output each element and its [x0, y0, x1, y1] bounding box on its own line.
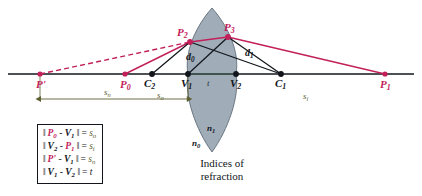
label-P2: P2 — [177, 27, 188, 40]
legend-row-si: ‖ V2 - P1 ‖ = si — [43, 141, 96, 154]
norm-close-bar: ‖ — [77, 128, 79, 138]
legend-term-P-prime: P' — [48, 154, 56, 164]
label-P1: P1 — [380, 79, 391, 92]
point-marker-P3 — [225, 34, 231, 40]
label-n1: n1 — [207, 124, 215, 134]
legend-box: ‖ P0 - V1 ‖ = so ‖ V2 - P1 ‖ = si ‖ P' -… — [37, 124, 103, 184]
label-si: si — [303, 92, 308, 102]
label-n0: n0 — [192, 139, 200, 149]
legend-term-V2: V2 — [65, 167, 75, 177]
norm-open-bar: ‖ — [43, 128, 45, 138]
legend-term-P0: P0 — [48, 128, 57, 138]
equals-sign: = — [81, 128, 86, 138]
minus-sign: - — [58, 154, 61, 164]
label-thickness-t: t — [207, 79, 210, 88]
label-P-prime: P' — [36, 79, 46, 92]
legend-term-P1: P1 — [65, 141, 74, 151]
legend-term-V1: V1 — [64, 154, 74, 164]
legend-result-si: si — [89, 141, 95, 151]
label-sn: sn — [104, 88, 111, 98]
legend-result-t: t — [90, 167, 93, 177]
legend-row-t: ‖ V1 - V2 ‖ = t — [43, 167, 96, 180]
legend-row-so: ‖ P0 - V1 ‖ = so — [43, 128, 96, 141]
label-V2: V2 — [230, 78, 241, 91]
legend-term-V1: V1 — [48, 167, 58, 177]
label-d0: d0 — [186, 52, 195, 64]
norm-close-bar: ‖ — [77, 167, 79, 177]
point-marker-P0 — [122, 71, 127, 76]
dimension-sn — [40, 76, 188, 101]
point-marker-P-prime — [37, 71, 42, 76]
minus-sign: - — [60, 167, 63, 177]
norm-close-bar: ‖ — [76, 154, 78, 164]
legend-row-sn: ‖ P' - V1 ‖ = sn — [43, 154, 96, 167]
label-d1: d1 — [245, 48, 254, 60]
label-P0: P0 — [120, 79, 131, 92]
point-marker-P1 — [382, 71, 387, 76]
legend-result-so: so — [89, 128, 96, 138]
legend-term-V2: V2 — [48, 141, 58, 151]
norm-close-bar: ‖ — [77, 141, 79, 151]
caption-line-1: Indices of — [182, 157, 262, 170]
point-marker-P2 — [187, 39, 193, 45]
label-C2: C2 — [144, 78, 155, 91]
legend-term-V1: V1 — [65, 128, 75, 138]
equals-sign: = — [82, 167, 87, 177]
norm-open-bar: ‖ — [43, 141, 45, 151]
caption-line-2: refraction — [182, 170, 262, 183]
legend-result-sn: sn — [88, 154, 95, 164]
minus-sign: - — [60, 141, 63, 151]
caption-indices-of-refraction: Indices of refraction — [182, 157, 262, 183]
label-P3: P3 — [224, 22, 235, 35]
optics-ray-diagram: P' P0 C2 V1 V2 C1 P1 P2 P3 d0 d1 sn so s… — [0, 0, 422, 196]
label-C1: C1 — [275, 78, 286, 91]
minus-sign: - — [59, 128, 62, 138]
equals-sign: = — [81, 154, 86, 164]
label-so: so — [157, 91, 164, 101]
norm-open-bar: ‖ — [43, 154, 45, 164]
label-V1: V1 — [181, 78, 192, 91]
norm-open-bar: ‖ — [43, 167, 45, 177]
equals-sign: = — [81, 141, 86, 151]
